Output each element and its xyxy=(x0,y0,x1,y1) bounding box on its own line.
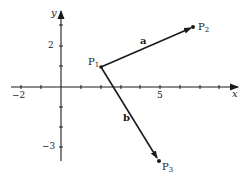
point-p2 xyxy=(191,25,195,29)
point-p3 xyxy=(157,159,161,163)
diagram-canvas xyxy=(0,0,248,184)
point-label-p3-sub: 3 xyxy=(169,166,173,174)
point-label-p2-sub: 2 xyxy=(205,26,209,34)
point-label-p3-name: P xyxy=(162,161,169,172)
point-label-p1-sub: 1 xyxy=(95,61,99,69)
vector-a xyxy=(101,28,191,67)
vector-label-b: b xyxy=(123,113,130,123)
point-p1 xyxy=(99,65,103,69)
x-tick-label-5: 5 xyxy=(157,91,163,100)
y-tick-label-neg3: −3 xyxy=(42,142,55,151)
x-axis-label: x xyxy=(232,89,238,99)
x-tick-label-neg2: −2 xyxy=(12,91,25,100)
y-axis-label: y xyxy=(51,8,57,18)
y-tick-label-2: 2 xyxy=(48,41,54,50)
point-label-p1: P1 xyxy=(88,57,99,69)
vector-diagram: y x −2 5 2 −3 P1 P2 P3 a b xyxy=(0,0,248,184)
point-label-p3: P3 xyxy=(162,162,173,174)
vector-label-a: a xyxy=(140,36,146,46)
point-label-p1-name: P xyxy=(88,56,95,67)
point-label-p2: P2 xyxy=(198,22,209,34)
point-label-p2-name: P xyxy=(198,21,205,32)
